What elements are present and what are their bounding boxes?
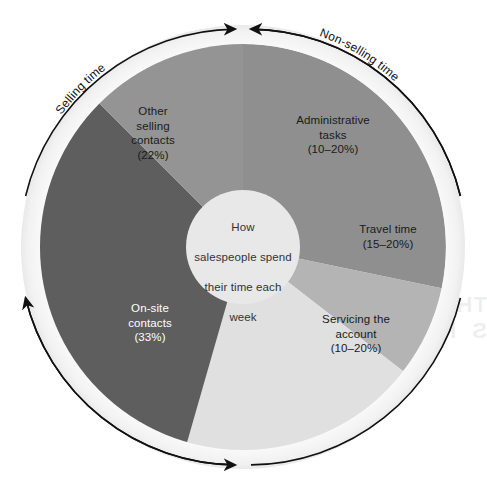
slice-label-travel-time: Travel time (15–20%): [340, 222, 436, 251]
hub-line-3: their time each: [180, 280, 306, 295]
hub-line-4: week: [180, 310, 306, 325]
hub-label: How salespeople spend their time each we…: [180, 205, 306, 340]
slice-label-servicing-the-account: Servicing the account (10–20%): [304, 312, 408, 356]
hub-line-1: How: [180, 220, 306, 235]
hub-line-2: salespeople spend: [180, 250, 306, 265]
slice-label-administrative-tasks: Administrative tasks (10–20%): [278, 113, 388, 157]
slice-label-other-selling-contacts: Other selling contacts (22%): [110, 104, 196, 162]
